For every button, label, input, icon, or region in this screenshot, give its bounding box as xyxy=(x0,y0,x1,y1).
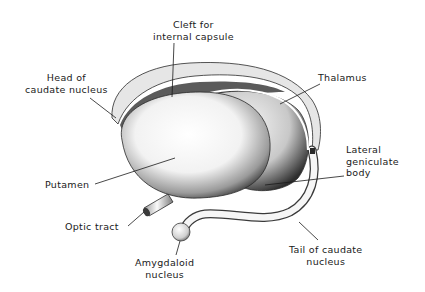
label-line: Cleft for xyxy=(153,19,234,31)
label-line: nucleus xyxy=(289,256,363,268)
label-line: Head of xyxy=(25,72,108,84)
label-line: Optic tract xyxy=(65,221,119,233)
label-lateral-geniculate-body: Lateral geniculate body xyxy=(346,144,399,179)
label-line: geniculate xyxy=(346,156,399,168)
label-line: Amygdaloid xyxy=(135,257,194,269)
label-tail-of-caudate: Tail of caudate nucleus xyxy=(289,244,363,267)
label-line: Tail of caudate xyxy=(289,244,363,256)
amygdaloid-shape xyxy=(172,223,190,241)
label-optic-tract: Optic tract xyxy=(65,221,119,233)
label-thalamus: Thalamus xyxy=(318,72,367,84)
anatomy-diagram: Cleft for internal capsule Head of cauda… xyxy=(0,0,425,292)
label-amygdaloid-nucleus: Amygdaloid nucleus xyxy=(135,257,194,280)
label-line: Putamen xyxy=(45,179,89,191)
label-head-of-caudate: Head of caudate nucleus xyxy=(25,72,108,95)
label-line: caudate nucleus xyxy=(25,84,108,96)
lateral-geniculate-shape xyxy=(310,148,315,154)
label-line: Thalamus xyxy=(318,72,367,84)
label-line: nucleus xyxy=(135,269,194,281)
label-line: Lateral xyxy=(346,144,399,156)
label-line: internal capsule xyxy=(153,31,234,43)
label-line: body xyxy=(346,167,399,179)
label-putamen: Putamen xyxy=(45,179,89,191)
label-cleft-internal-capsule: Cleft for internal capsule xyxy=(153,19,234,42)
putamen-shape xyxy=(121,92,270,198)
